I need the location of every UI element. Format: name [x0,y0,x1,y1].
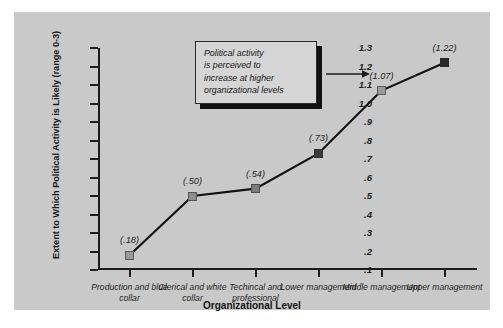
x-axis-tick [381,270,383,277]
y-axis-tick [90,121,98,123]
y-axis-tick [90,195,98,197]
y-axis-tick [90,269,98,271]
y-axis-tick [90,158,98,160]
data-point-marker [440,58,449,67]
x-axis-tick [444,270,446,277]
y-axis-tick [90,47,98,49]
y-axis-tick [90,214,98,216]
annotation-box: Political activity is perceived to incre… [195,41,317,104]
data-point-marker [377,86,386,95]
y-axis-tick [90,140,98,142]
data-point-marker [314,149,323,158]
data-point-marker [188,192,197,201]
y-axis-tick [90,232,98,234]
chart-figure: Extent to Which Political Activity is Li… [14,12,490,310]
y-axis-tick [90,84,98,86]
x-axis-tick [192,270,194,277]
annotation-line-2: is perceived to [204,59,309,71]
data-point-marker [251,184,260,193]
x-axis-tick [129,270,131,277]
y-axis-tick [90,177,98,179]
annotation-line-3: increase at higher [204,72,309,84]
x-axis-tick [318,270,320,277]
x-axis-tick [255,270,257,277]
y-axis-tick [90,103,98,105]
x-axis-title: Organizational Level [14,300,490,311]
x-axis-category-label: Upper management [402,282,488,293]
annotation-line-4: organizational levels [204,84,309,96]
data-point-label: (.18) [100,235,160,245]
data-point-label: (.50) [163,176,223,186]
data-point-marker [125,251,134,260]
arrow-right-icon [326,69,370,79]
y-axis-tick [90,66,98,68]
data-point-label: (.73) [289,133,349,143]
data-point-label: (.54) [226,169,286,179]
data-point-label: (1.22) [415,43,475,53]
y-axis-title: Extent to Which Political Activity is Li… [51,23,61,267]
annotation-line-1: Political activity [204,47,309,59]
annotation-callout: Political activity is perceived to incre… [195,41,317,104]
y-axis-tick [90,251,98,253]
